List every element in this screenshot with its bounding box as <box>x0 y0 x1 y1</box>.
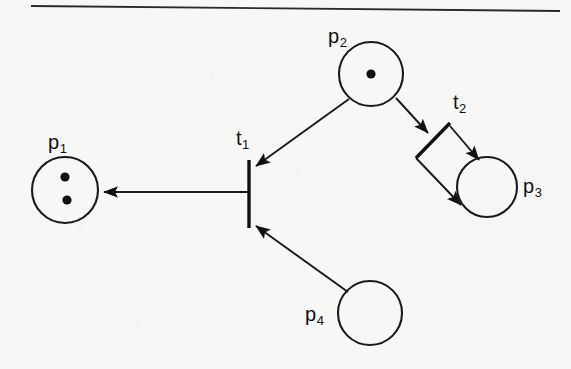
label-p2: p2 <box>328 26 346 46</box>
arc-t2-to-p3-upper <box>450 126 479 160</box>
label-p4: p4 <box>305 304 323 324</box>
transition-t2 <box>416 123 450 158</box>
arc-p2-to-t1 <box>256 99 349 166</box>
label-p4-text: p <box>305 303 316 325</box>
label-t1-text: t <box>236 127 242 149</box>
arc-p4-to-t1 <box>256 226 348 292</box>
place-p3 <box>457 157 517 217</box>
label-t2: t2 <box>453 92 466 112</box>
label-p3-text: p <box>523 175 534 197</box>
label-p1-sub: 1 <box>60 141 67 156</box>
label-t2-text: t <box>453 91 459 113</box>
label-p3-sub: 3 <box>535 185 542 200</box>
label-t1: t1 <box>236 128 249 148</box>
token-p1-a <box>60 172 69 181</box>
label-p4-sub: 4 <box>317 313 324 328</box>
arc-t2-to-p3-lower <box>416 158 461 205</box>
petri-net-figure: p1 p2 p3 p4 t1 t2 <box>0 0 571 369</box>
label-p3: p3 <box>523 176 541 196</box>
label-p2-sub: 2 <box>340 35 347 50</box>
label-t1-sub: 1 <box>242 137 249 152</box>
label-p1-text: p <box>48 131 59 153</box>
arc-p2-to-t2 <box>396 98 428 133</box>
place-p1 <box>32 157 98 223</box>
top-horizontal-rule <box>31 6 560 11</box>
label-t2-sub: 2 <box>459 101 466 116</box>
token-p1-b <box>62 195 71 204</box>
petri-net-canvas <box>0 0 571 369</box>
label-p1: p1 <box>48 132 66 152</box>
label-p2-text: p <box>328 25 339 47</box>
token-p2-a <box>366 69 375 78</box>
place-p4 <box>338 281 402 345</box>
